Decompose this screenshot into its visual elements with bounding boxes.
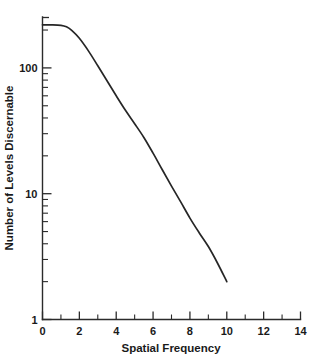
x-tick-label: 14 xyxy=(294,325,307,337)
x-tick-label: 6 xyxy=(150,325,156,337)
x-tick-label: 12 xyxy=(258,325,270,337)
data-curve-levels-discernable xyxy=(43,25,227,282)
chart-figure: 110100 02468101214 Spatial Frequency Num… xyxy=(0,0,317,360)
x-tick-label: 2 xyxy=(76,325,82,337)
x-axis-minor-ticks xyxy=(61,315,282,320)
y-tick-label: 100 xyxy=(19,62,37,74)
x-axis-title: Spatial Frequency xyxy=(121,342,221,354)
y-tick-label: 10 xyxy=(25,188,37,200)
y-axis-tick-labels: 110100 xyxy=(19,62,37,326)
x-tick-label: 10 xyxy=(221,325,233,337)
x-tick-label: 0 xyxy=(39,325,45,337)
x-tick-label: 4 xyxy=(113,325,120,337)
y-axis-title: Number of Levels Discernable xyxy=(3,86,15,251)
x-tick-label: 8 xyxy=(187,325,193,337)
plot-area: 110100 02468101214 Spatial Frequency Num… xyxy=(0,0,317,360)
x-axis-tick-labels: 02468101214 xyxy=(39,325,307,337)
y-tick-label: 1 xyxy=(31,314,37,326)
